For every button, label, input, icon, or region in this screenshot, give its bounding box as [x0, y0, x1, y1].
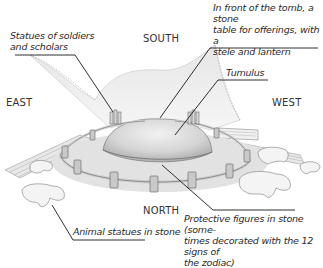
label-line: times decorated with the 12 signs of [184, 235, 323, 257]
label-tumulus: Tumulus [226, 67, 264, 78]
label-line: Statues of soldiers [10, 30, 94, 41]
label-offering-table: In front of the tomb, a stone table for … [213, 2, 323, 57]
label-line: Protective figures in stone (some- [184, 213, 323, 235]
label-animal-statues: Animal statues in stone [73, 226, 180, 237]
hill-backdrop [30, 45, 240, 130]
label-line: and scholars [10, 41, 94, 52]
label-line: stele and lantern [213, 46, 323, 57]
label-protective-figures: Protective figures in stone (some- times… [184, 213, 323, 268]
direction-north: NORTH [143, 205, 179, 216]
label-line: the zodiac) [184, 257, 323, 268]
label-soldiers-scholars: Statues of soldiers and scholars [10, 30, 94, 52]
label-line: In front of the tomb, a stone [213, 2, 323, 24]
direction-south: SOUTH [143, 33, 179, 44]
direction-east: EAST [6, 97, 32, 108]
label-line: table for offerings, with a [213, 24, 323, 46]
direction-west: WEST [272, 97, 301, 108]
